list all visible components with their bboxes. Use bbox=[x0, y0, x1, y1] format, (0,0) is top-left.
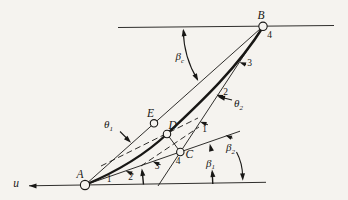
joint-A bbox=[80, 180, 89, 189]
joint-E bbox=[150, 120, 157, 127]
upper-position-2: 2 bbox=[223, 87, 228, 97]
upper-position-3: 3 bbox=[247, 58, 252, 68]
upper-frame-line bbox=[118, 26, 334, 28]
lower-position-2: 2 bbox=[128, 172, 133, 182]
betac-upper-arrowhead bbox=[181, 28, 187, 36]
lower-position-4: 4 bbox=[176, 156, 181, 166]
mid-position-arrowhead bbox=[139, 168, 145, 176]
angle-betac: βc bbox=[175, 28, 201, 82]
joint-B bbox=[259, 22, 267, 30]
label-A: A bbox=[75, 168, 84, 180]
angle-beta2: β2 bbox=[225, 133, 246, 181]
theta1-label: θ1 bbox=[104, 118, 113, 133]
lower-position-3: 3 bbox=[155, 161, 160, 171]
u-axis-arrowhead bbox=[29, 183, 37, 188]
linkage-diagram-figure: θ1 θ2 βc β1 β2 bbox=[0, 0, 348, 200]
upper-position-1: 1 bbox=[202, 124, 207, 134]
beta2-label: β2 bbox=[225, 141, 235, 156]
u-axis-line bbox=[29, 182, 266, 186]
theta2-label: θ2 bbox=[234, 97, 243, 112]
u-axis-label: u bbox=[13, 177, 19, 189]
betac-lower-arrowhead bbox=[192, 73, 200, 82]
upper-position-labels: 1 2 3 4 bbox=[202, 30, 272, 134]
angle-beta1: β1 bbox=[205, 143, 215, 184]
linkage-diagram-svg: θ1 θ2 βc β1 β2 bbox=[0, 0, 348, 200]
joint-D bbox=[163, 130, 170, 137]
beta1-label: β1 bbox=[205, 157, 215, 172]
angle-theta1: θ1 bbox=[104, 118, 133, 144]
betac-label: βc bbox=[175, 50, 185, 65]
lower-position-1: 1 bbox=[107, 174, 112, 184]
mid-position-arrow bbox=[139, 168, 145, 184]
beta1-upper-arrowhead bbox=[207, 143, 214, 151]
label-D: D bbox=[168, 119, 178, 131]
label-C: C bbox=[186, 148, 194, 160]
dashed-construction-line-through-D bbox=[101, 118, 198, 166]
label-B: B bbox=[257, 9, 264, 21]
upper-position-4: 4 bbox=[267, 30, 272, 40]
label-E: E bbox=[146, 107, 154, 119]
beta2-lower-arrowhead bbox=[240, 173, 245, 181]
